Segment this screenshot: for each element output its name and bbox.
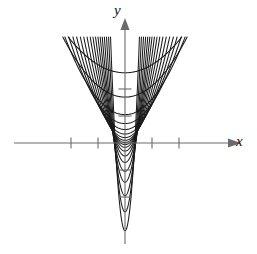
axes <box>14 18 241 244</box>
y-axis-arrowhead <box>120 18 129 30</box>
parabola-family-figure: x y <box>0 0 257 254</box>
x-axis-label: x <box>236 134 243 149</box>
y-axis-label: y <box>114 3 121 18</box>
plot-canvas <box>0 0 257 254</box>
